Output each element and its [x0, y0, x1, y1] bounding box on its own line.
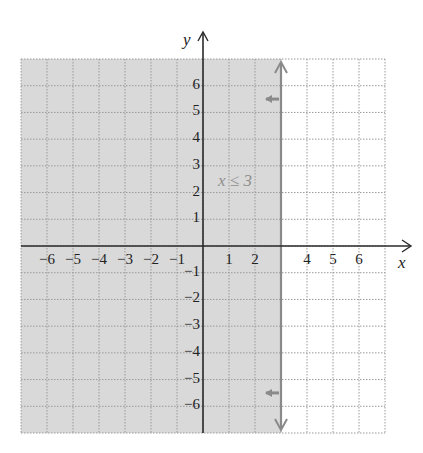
x-tick-label: −3	[117, 251, 133, 267]
y-tick-label: −4	[184, 343, 200, 359]
x-axis-label: x	[397, 253, 406, 272]
y-tick-label: 5	[193, 102, 201, 118]
x-tick-label: −2	[143, 251, 159, 267]
inequality-label: x ≤ 3	[217, 171, 252, 190]
y-tick-label: 4	[193, 129, 201, 145]
x-tick-label: −5	[65, 251, 81, 267]
x-tick-label: 1	[225, 251, 233, 267]
x-tick-label: 2	[251, 251, 259, 267]
x-tick-label: −1	[169, 251, 185, 267]
y-tick-label: 1	[193, 209, 201, 225]
y-tick-label: −1	[184, 263, 200, 279]
y-tick-label: 2	[193, 183, 201, 199]
y-tick-label: 6	[193, 76, 201, 92]
y-tick-label: −3	[184, 316, 200, 332]
x-tick-label: 5	[329, 251, 337, 267]
y-tick-label: −5	[184, 370, 200, 386]
x-tick-label: −4	[91, 251, 107, 267]
x-tick-label: −6	[39, 251, 55, 267]
x-tick-label: 4	[303, 251, 311, 267]
y-tick-label: −2	[184, 289, 200, 305]
inequality-graph: −6−5−4−3−2−112456−6−5−4−3−2−1123456 x y …	[0, 0, 423, 453]
x-tick-label: 6	[355, 251, 363, 267]
y-tick-label: −6	[184, 396, 200, 412]
y-tick-label: 3	[193, 156, 201, 172]
y-axis-label: y	[181, 30, 191, 49]
